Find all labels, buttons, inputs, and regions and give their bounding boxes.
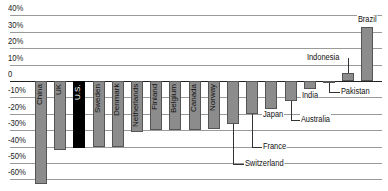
y-tick-label: 10% [8,53,23,63]
category-label: Finland [151,84,159,110]
category-label: Indonesia [306,52,340,62]
y-tick-label: -20% [8,102,26,112]
bar-chart: 40%30%20%10%0-10%-20%-30%-40%-50%-60%Chi… [0,0,388,191]
gridline [10,65,382,66]
bar-india [304,81,316,89]
bar-switzerland [227,81,239,124]
leader-line [291,120,300,121]
leader-line [252,114,253,147]
category-label: Netherlands [132,84,140,127]
category-label: Canada [190,84,198,112]
category-label: China [36,84,44,105]
y-tick-label: 0 [8,69,12,79]
y-tick-label: 40% [8,3,23,13]
category-label: Sweden [94,84,102,113]
leader-line [329,83,330,92]
leader-line [329,92,340,93]
gridline [10,32,382,33]
y-tick-label: 20% [8,36,23,46]
category-label: Pakistan [340,86,370,96]
bar-brazil [361,27,373,81]
y-tick-label: -50% [8,151,26,161]
category-label: U.S. [74,84,82,100]
category-label: Denmark [113,84,121,116]
y-tick-label: 30% [8,20,23,30]
bar-indonesia [342,73,354,81]
gridline [10,163,382,164]
gridline [10,179,382,180]
y-tick-label: -60% [8,167,26,177]
category-label: Switzerland [244,158,284,168]
leader-line [233,124,234,164]
category-label: UK [55,84,63,95]
category-label: Japan [262,109,284,119]
y-tick-label: -30% [8,118,26,128]
leader-line [348,58,349,73]
category-label: Belgium [170,84,178,113]
bar-japan [265,81,277,109]
gridline [10,48,382,49]
category-label: Australia [300,114,331,124]
category-label: Norway [209,84,217,111]
category-label: India [301,90,319,100]
leader-line [291,101,292,120]
y-tick-label: -10% [8,85,26,95]
leader-line [252,147,262,148]
bar-australia [285,81,297,101]
leader-line [233,164,244,165]
y-tick-label: -40% [8,135,26,145]
gridline [10,15,382,16]
bar-france [246,81,258,114]
category-label: Brazil [357,14,377,24]
category-label: France [262,141,287,151]
